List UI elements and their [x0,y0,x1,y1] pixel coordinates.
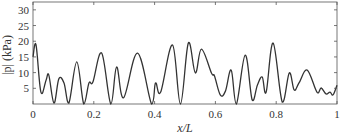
chart: 00.20.40.60.81 51015202530 x/L |p| (kPa) [0,0,340,137]
y-tick-label: 10 [18,67,30,79]
plot-area [33,2,337,104]
x-axis-ticks: 00.20.40.60.81 [30,2,340,120]
x-tick-label: 1 [334,108,340,120]
x-tick-label: 0.2 [87,108,101,120]
y-tick-label: 25 [18,20,30,32]
x-tick-label: 0.6 [209,108,223,120]
x-tick-label: 0.8 [269,108,283,120]
x-axis-label: x/L [176,121,193,135]
x-tick-label: 0 [30,108,36,120]
axes-box [33,2,337,104]
y-tick-label: 15 [18,51,30,63]
series-line [33,42,337,104]
y-tick-label: 5 [24,82,30,94]
y-tick-label: 30 [18,4,30,16]
y-axis-label: |p| (kPa) [0,35,14,75]
y-tick-label: 20 [18,35,30,47]
x-tick-label: 0.4 [148,108,162,120]
